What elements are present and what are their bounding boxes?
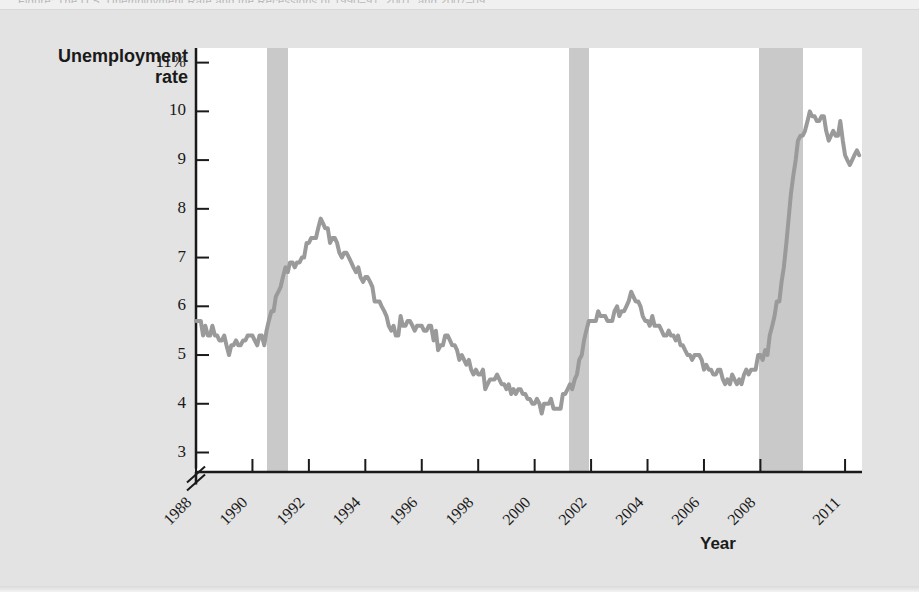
recession-band [267,48,288,472]
x-axis-tick-label: 1990 [216,493,251,528]
y-axis-break-mark [187,475,205,491]
x-axis-tick-label: 1994 [329,493,364,528]
x-axis-tick-label: 2008 [724,493,759,528]
plot-area [196,48,862,472]
y-axis-tick-label: 8 [126,198,186,218]
x-axis-tick-label: 2011 [809,494,844,529]
x-axis-tick-label: 1998 [442,493,477,528]
y-axis-tick-label: 11% [126,52,186,72]
y-axis-tick-label: 3 [126,442,186,462]
y-axis-tick-label: 5 [126,344,186,364]
x-axis-tick-label: 1992 [273,493,308,528]
recession-band [759,48,803,472]
unemployment-rate-chart: Unemployment rate 11%109876543 198819901… [0,0,919,599]
recession-band [569,48,589,472]
y-axis-tick-label: 7 [126,247,186,267]
x-axis-tick-label: 1996 [386,493,421,528]
x-axis-tick-label: 2004 [612,493,647,528]
x-axis-title: Year [700,534,736,554]
y-axis-tick-label: 6 [126,295,186,315]
x-axis-tick-label: 2000 [499,493,534,528]
figure-container: Figure: The U.S. Unemployment Rate and t… [0,0,919,599]
y-axis-tick-label: 4 [126,393,186,413]
x-axis-tick-label: 2006 [668,493,703,528]
x-axis-tick-label: 2002 [555,493,590,528]
y-axis-tick-label: 9 [126,149,186,169]
y-axis-tick-label: 10 [126,100,186,120]
